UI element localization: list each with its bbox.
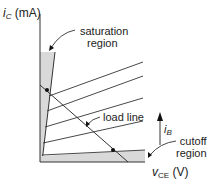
cutoff-label: cutoff region <box>176 135 207 159</box>
ib-curve-5 <box>49 62 143 96</box>
cutoff-label-line1: cutoff <box>176 135 207 147</box>
ib-curves <box>42 62 145 155</box>
load-line-leader <box>88 117 100 124</box>
y-axis-label: iC (mA) <box>3 7 41 21</box>
y-axis-sub: C <box>6 12 12 21</box>
x-axis-unit: (V) <box>172 165 188 179</box>
y-axis-unit: (mA) <box>15 6 41 20</box>
saturation-leader-arrowhead <box>49 45 54 51</box>
ib-arrow-head <box>157 112 163 121</box>
cutoff-point <box>111 148 115 152</box>
saturation-point <box>45 88 49 92</box>
cutoff-label-line2: region <box>176 147 207 159</box>
ib-curve-4 <box>47 76 143 111</box>
x-axis-label: vCE (V) <box>152 166 188 180</box>
load-line-text: load line <box>103 111 144 123</box>
x-axis-sub: CE <box>158 171 169 180</box>
saturation-label-line2: region <box>87 37 128 49</box>
load-line-label: load line <box>103 111 144 123</box>
saturation-label: saturation region <box>80 25 128 49</box>
ib-label: iB <box>164 123 172 137</box>
saturation-leader <box>51 30 75 48</box>
ib-sub: B <box>166 128 171 137</box>
cutoff-region-shade <box>40 150 145 162</box>
cutoff-leader <box>150 141 176 155</box>
saturation-label-line1: saturation <box>80 25 128 37</box>
